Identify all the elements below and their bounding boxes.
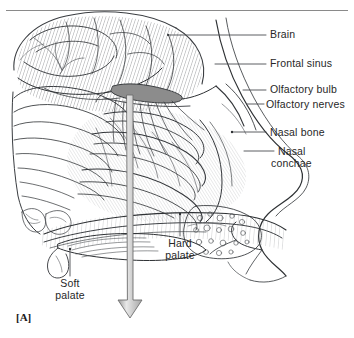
label-soft-palate-line1: Soft xyxy=(47,277,93,289)
label-brain: Brain xyxy=(270,28,295,40)
label-frontal-sinus: Frontal sinus xyxy=(270,57,332,69)
label-olfactory-bulb: Olfactory bulb xyxy=(270,83,337,95)
label-nasal-conchae-line1: Nasal xyxy=(278,145,306,157)
label-soft-palate-line2: palate xyxy=(47,289,93,301)
label-hard-palate-line1: Hard xyxy=(157,237,203,249)
panel-identifier: [A] xyxy=(16,311,31,323)
anatomy-figure: Brain Frontal sinus Olfactory bulb Olfac… xyxy=(0,0,354,338)
label-hard-palate-line2: palate xyxy=(157,249,203,261)
label-nasal-conchae-line2: conchae xyxy=(271,157,312,169)
label-olfactory-nerves: Olfactory nerves xyxy=(266,98,345,110)
label-nasal-bone: Nasal bone xyxy=(270,126,325,138)
